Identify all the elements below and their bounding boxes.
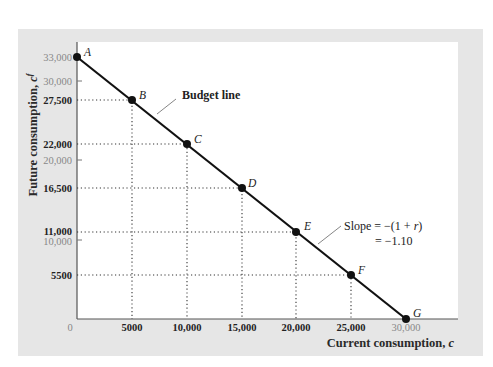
point-label-f: F (358, 264, 365, 276)
point-d (238, 184, 246, 192)
x-tick: 25,000 (337, 322, 366, 333)
point-a (73, 53, 81, 61)
point-label-c: C (194, 133, 202, 145)
y-tick: 27,500 (43, 95, 72, 106)
x-tick: 15,000 (228, 322, 257, 333)
y-tick: 16,500 (43, 183, 72, 194)
dotted-guides (77, 100, 351, 319)
y-tick: 10,000 (43, 236, 72, 247)
x-axis-label: Current consumption, c (327, 336, 454, 351)
point-label-b: B (139, 89, 146, 101)
y-tick: 33,000 (43, 52, 72, 63)
budget-line-leader (157, 99, 176, 114)
point-f (347, 271, 355, 279)
y-tick: 30,000 (43, 76, 72, 87)
slope-label-line2: = −1.10 (375, 234, 413, 249)
point-label-d: D (248, 177, 256, 189)
x-tick: 0 (67, 322, 72, 333)
y-tick: 22,000 (43, 139, 72, 150)
y-axis-ticks (77, 81, 82, 240)
x-tick: 10,000 (173, 322, 202, 333)
point-e (292, 228, 300, 236)
point-label-a: A (84, 46, 91, 58)
y-tick: 5500 (51, 270, 72, 281)
point-label-e: E (304, 220, 311, 232)
point-label-g: G (413, 307, 421, 319)
point-c (183, 140, 191, 148)
x-tick: 5000 (122, 322, 143, 333)
x-tick: 30,000 (392, 322, 421, 333)
y-axis-label: Future consumption, cf (25, 74, 41, 197)
budget-line-label: Budget line (182, 88, 240, 103)
point-b (128, 96, 136, 104)
y-tick: 20,000 (43, 155, 72, 166)
x-tick: 20,000 (282, 322, 311, 333)
slope-label-line1: Slope = −(1 + r) (344, 219, 422, 234)
slope-leader (318, 226, 341, 244)
